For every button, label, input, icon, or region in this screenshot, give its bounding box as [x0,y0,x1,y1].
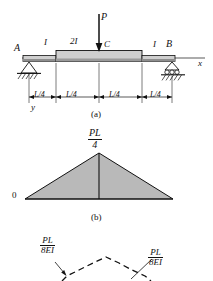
label-section-middle-2i: 2I [70,37,78,46]
mei-right-denominator: 8EI [148,257,163,267]
mei-right-value: PL 8EI [148,248,163,268]
moment-peak-denominator: 4 [88,139,102,151]
mei-left-value: PL 8EI [40,236,55,256]
label-section-left-i: I [44,38,47,47]
moment-diagram-panel [25,153,173,199]
moment-baseline-zero: 0 [12,191,17,200]
caption-b: (b) [91,213,102,222]
mei-left-denominator: 8EI [40,245,55,255]
beam-segment-left-shadow [23,59,56,62]
beam-analysis-figure: A B C P I 2I I x y L/4 L/4 L/4 L/4 (a) P… [0,0,213,281]
label-axis-y: y [31,103,35,112]
label-point-b: B [166,39,172,49]
label-point-c: C [104,40,110,49]
label-axis-x: x [198,59,202,68]
moment-peak-numerator: PL [88,128,102,139]
mei-left-leader [55,262,67,276]
dimension-label-2: L/4 [66,91,77,99]
beam-segment-middle-shadow [56,59,142,62]
dimension-label-3: L/4 [109,91,120,99]
mei-left-numerator: PL [40,236,55,245]
moment-peak-value: PL 4 [88,128,102,150]
mei-right-numerator: PL [148,248,163,257]
mei-diagram-panel [55,257,152,281]
roller-support-b [161,62,185,80]
label-point-a: A [14,43,20,53]
dimension-label-4: L/4 [150,91,161,99]
beam-segment-right-shadow [142,59,175,62]
dimension-label-1: L/4 [34,91,45,99]
label-load-p: P [101,12,107,22]
caption-a: (a) [91,110,101,119]
mei-dashed-outline [62,257,151,281]
label-section-right-i: I [153,40,156,49]
